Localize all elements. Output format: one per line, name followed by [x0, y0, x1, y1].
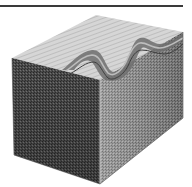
- block-diagram: [0, 0, 192, 187]
- illustration: [0, 0, 192, 187]
- left-face-shade: [12, 58, 100, 184]
